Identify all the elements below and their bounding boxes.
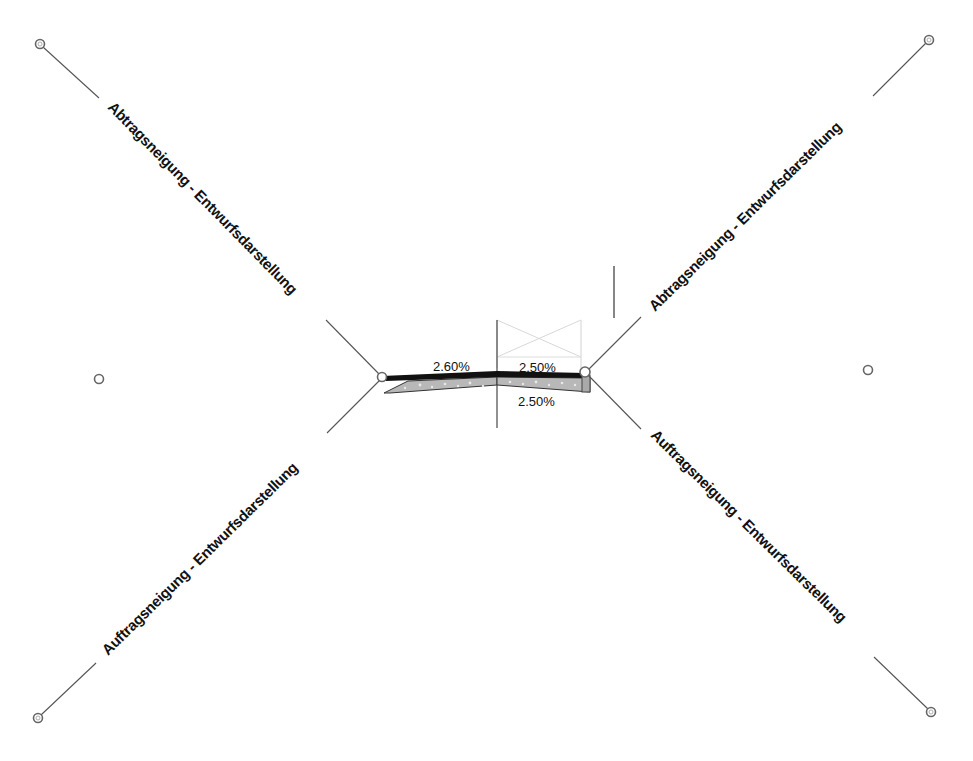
grade-right-bottom: 2.50%	[518, 394, 555, 409]
grade-right-top: 2.50%	[519, 360, 556, 375]
label-top-left-cut-slope: Abtragsneigung - Entwurfsdarstellung	[105, 98, 301, 297]
grip-bottom-right[interactable]	[927, 708, 936, 717]
grip-bottom-left[interactable]	[34, 714, 43, 723]
assembly-drawing-canvas[interactable]: 2.60% 2.50% 2.50% Abtragsneigung - Entwu…	[0, 0, 973, 761]
label-top-right-cut-slope: Abtragsneigung - Entwurfsdarstellung	[645, 118, 844, 314]
grip-top-left[interactable]	[36, 40, 45, 49]
grip-side-left[interactable]	[95, 375, 104, 384]
pavement-section[interactable]	[382, 371, 590, 393]
grip-side-right[interactable]	[864, 366, 873, 375]
label-bottom-right-fill-slope: Auftragsneigung - Entwurfsdarstellung	[648, 426, 851, 626]
grip-hinge-left[interactable]	[378, 373, 387, 382]
label-bottom-left-fill-slope: Auftragsneigung - Entwurfsdarstellung	[98, 459, 301, 659]
grade-left-top: 2.60%	[433, 359, 470, 374]
grip-top-right[interactable]	[925, 36, 934, 45]
grip-hinge-right[interactable]	[580, 367, 590, 377]
